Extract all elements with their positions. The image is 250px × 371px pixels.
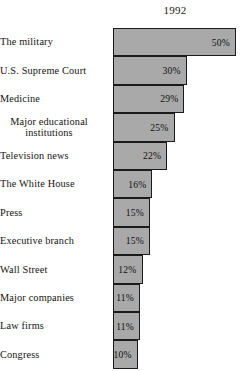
bar-value-label: 15% xyxy=(126,235,149,246)
bar: 11% xyxy=(113,284,140,312)
bar-value-label: 15% xyxy=(126,207,149,218)
bar-value-label: 22% xyxy=(143,150,166,161)
bar-track: 11% xyxy=(108,312,250,340)
bar-row: The military50% xyxy=(0,28,250,56)
bar-value-label: 25% xyxy=(150,122,173,133)
bar-row: Law firms11% xyxy=(0,312,250,340)
bar-track: 30% xyxy=(108,56,250,84)
bar-row-label: Wall Street xyxy=(0,255,108,283)
bar-row-label: The White House xyxy=(0,170,108,198)
bar: 10% xyxy=(113,340,138,368)
bar-row-label-line: Major educational xyxy=(10,116,88,127)
bar: 30% xyxy=(113,56,187,84)
bar: 15% xyxy=(113,198,150,226)
bar: 15% xyxy=(113,227,150,255)
bar-row-label: U.S. Supreme Court xyxy=(0,56,108,84)
bar-value-label: 11% xyxy=(116,321,139,332)
bar-row-label: Major companies xyxy=(0,284,108,312)
bar-track: 10% xyxy=(108,340,250,368)
bar-value-label: 30% xyxy=(163,65,186,76)
bar-track: 11% xyxy=(108,284,250,312)
bar: 29% xyxy=(113,85,184,113)
bar-row: U.S. Supreme Court30% xyxy=(0,56,250,84)
bar-row: Medicine29% xyxy=(0,85,250,113)
bar: 12% xyxy=(113,255,143,283)
bar-row-label: Television news xyxy=(0,142,108,170)
bar-row: Television news22% xyxy=(0,142,250,170)
bar-track: 50% xyxy=(108,28,250,56)
bar-row: Congress10% xyxy=(0,340,250,368)
bar-row-label: Medicine xyxy=(0,85,108,113)
bar-row-label-line: institutions xyxy=(25,127,73,138)
bar-row-label: Law firms xyxy=(0,312,108,340)
bar-row: Major educationalinstitutions25% xyxy=(0,113,250,141)
bar-row-label: Executive branch xyxy=(0,227,108,255)
bar-track: 15% xyxy=(108,198,250,226)
bar-row: Major companies11% xyxy=(0,284,250,312)
bar-row: Press15% xyxy=(0,198,250,226)
bar-value-label: 12% xyxy=(118,264,141,275)
column-header-year: 1992 xyxy=(113,4,237,16)
bar-track: 25% xyxy=(108,113,250,141)
bar-row: The White House16% xyxy=(0,170,250,198)
bar: 50% xyxy=(113,28,236,56)
bar-value-label: 16% xyxy=(128,179,151,190)
bar-value-label: 11% xyxy=(116,292,139,303)
bar-value-label: 50% xyxy=(212,37,235,48)
bar-rows-container: The military50%U.S. Supreme Court30%Medi… xyxy=(0,28,250,369)
bar-row: Executive branch15% xyxy=(0,227,250,255)
bar: 16% xyxy=(113,170,152,198)
bar-value-label: 10% xyxy=(113,349,136,360)
bar-chart: 1992 The military50%U.S. Supreme Court30… xyxy=(0,0,250,371)
bar-row: Wall Street12% xyxy=(0,255,250,283)
bar-track: 12% xyxy=(108,255,250,283)
bar: 22% xyxy=(113,142,167,170)
bar-track: 22% xyxy=(108,142,250,170)
bar-row-label: The military xyxy=(0,28,108,56)
bar-track: 16% xyxy=(108,170,250,198)
bar-row-label: Major educationalinstitutions xyxy=(0,113,108,141)
bar-track: 29% xyxy=(108,85,250,113)
bar-value-label: 29% xyxy=(160,93,183,104)
bar: 25% xyxy=(113,113,175,141)
bar-track: 15% xyxy=(108,227,250,255)
bar-row-label: Congress xyxy=(0,340,108,368)
bar-row-label: Press xyxy=(0,198,108,226)
bar: 11% xyxy=(113,312,140,340)
